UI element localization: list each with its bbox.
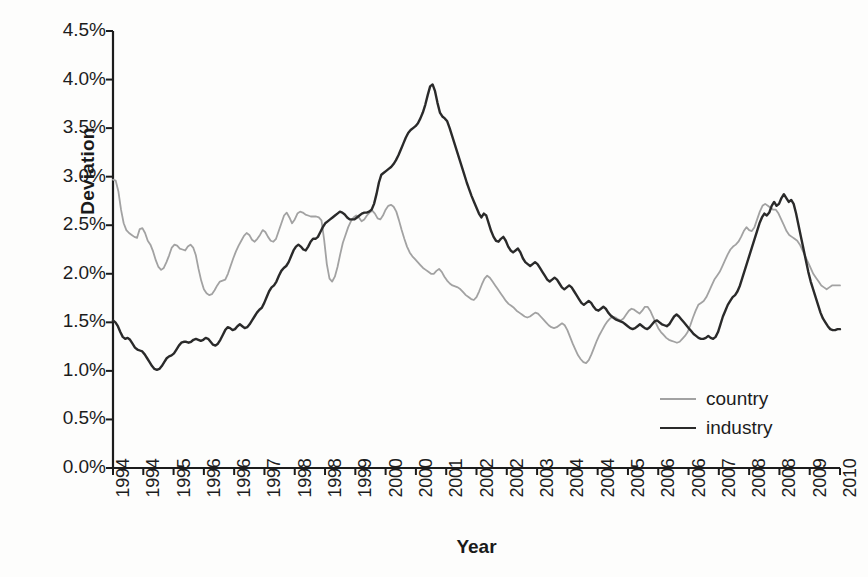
x-tick-label: 1998 (314, 478, 336, 538)
x-tick-label: 2009 (799, 478, 821, 538)
x-tick-label-text: 1996 (234, 459, 255, 498)
x-tick-label: 2003 (526, 478, 548, 538)
x-tick-label-text: 1994 (113, 459, 134, 498)
legend-item-industry: industry (660, 413, 840, 442)
x-tick-label-text: 2002 (507, 459, 528, 498)
x-tick-label-text: 2010 (840, 459, 861, 498)
x-tick-label-text: 2003 (537, 459, 558, 498)
x-tick-label: 2004 (587, 478, 609, 538)
chart-legend: countryindustry (660, 384, 840, 442)
x-tick-label: 2000 (405, 478, 427, 538)
x-tick-label: 1997 (253, 478, 275, 538)
x-tick-label: 1996 (223, 478, 245, 538)
x-tick-label-text: 1994 (143, 459, 164, 498)
legend-swatch-industry (660, 427, 696, 429)
x-tick-label-text: 2005 (628, 459, 649, 498)
legend-label-industry: industry (706, 417, 773, 439)
x-tick-label: 2010 (829, 478, 851, 538)
x-tick-label: 2005 (617, 478, 639, 538)
x-tick-label-text: 1996 (204, 459, 225, 498)
x-tick-label-text: 2006 (658, 459, 679, 498)
x-tick-label: 1998 (284, 478, 306, 538)
x-tick-label-text: 2006 (689, 459, 710, 498)
x-tick-label-text: 2004 (567, 459, 588, 498)
x-tick-label-text: 2007 (719, 459, 740, 498)
x-tick-label: 2006 (678, 478, 700, 538)
x-tick-label: 2006 (647, 478, 669, 538)
chart-figure: Deviation 4.5%4.0%3.5%3.0%2.5%2.0%1.5%1.… (0, 0, 868, 577)
x-tick-label-text: 2001 (446, 459, 467, 498)
legend-item-country: country (660, 384, 840, 413)
x-tick-label: 2004 (556, 478, 578, 538)
x-tick-label-text: 1997 (264, 459, 285, 498)
x-tick-label-text: 2004 (598, 459, 619, 498)
x-tick-label-text: 2008 (749, 459, 770, 498)
x-tick-label-text: 2000 (386, 459, 407, 498)
x-tick-label: 1996 (193, 478, 215, 538)
x-tick-label: 1994 (102, 478, 124, 538)
x-tick-label-text: 1998 (325, 459, 346, 498)
legend-label-country: country (706, 388, 768, 410)
x-tick-label: 1999 (344, 478, 366, 538)
x-tick-label: 2002 (466, 478, 488, 538)
x-tick-label-text: 1999 (355, 459, 376, 498)
x-axis-tick-labels: 1994199419951996199619971998199819992000… (0, 0, 868, 577)
x-tick-label-text: 2008 (779, 459, 800, 498)
x-axis-title-text: Year (456, 536, 496, 557)
x-tick-label-text: 2000 (416, 459, 437, 498)
x-tick-label: 2008 (738, 478, 760, 538)
x-tick-label: 2007 (708, 478, 730, 538)
x-tick-label: 2001 (435, 478, 457, 538)
x-tick-label: 1994 (132, 478, 154, 538)
x-tick-label: 2008 (768, 478, 790, 538)
x-axis-title: Year (113, 536, 840, 558)
x-tick-label: 1995 (163, 478, 185, 538)
x-tick-label-text: 2009 (810, 459, 831, 498)
x-tick-label-text: 1995 (174, 459, 195, 498)
x-tick-label-text: 2002 (477, 459, 498, 498)
x-tick-label-text: 1998 (295, 459, 316, 498)
x-tick-label: 2000 (375, 478, 397, 538)
legend-swatch-country (660, 398, 696, 400)
x-tick-label: 2002 (496, 478, 518, 538)
